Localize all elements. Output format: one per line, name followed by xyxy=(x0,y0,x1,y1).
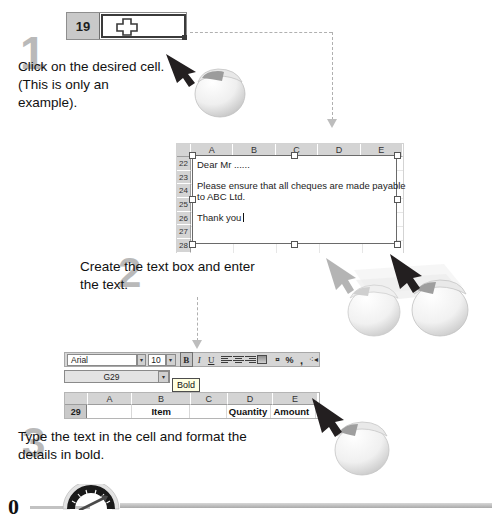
align-right-icon xyxy=(245,356,256,364)
step3-column-header-a[interactable]: A xyxy=(88,393,133,405)
textbox-handle-ne[interactable] xyxy=(394,152,401,159)
step3-column-header-d[interactable]: D xyxy=(228,393,273,405)
step3-row: 29 Item Quantity Amount xyxy=(65,405,319,418)
align-left-button[interactable] xyxy=(221,353,232,366)
decrease-decimal-button[interactable]: ⁖◂ xyxy=(308,353,319,366)
step2-row-header-column: 22 23 24 25 26 27 28 xyxy=(177,157,191,253)
textbox-handle-s[interactable] xyxy=(291,241,298,248)
speedometer-gauge-icon xyxy=(60,484,122,510)
connector-1-horizontal xyxy=(190,32,332,33)
step-2-text: Create the text box and enter the text. xyxy=(80,258,268,294)
step3-cell-d29[interactable]: Quantity xyxy=(227,405,272,418)
percent-button[interactable]: % xyxy=(284,353,295,366)
decrease-decimal-icon: ⁖◂ xyxy=(309,355,318,364)
merge-center-icon xyxy=(257,355,267,364)
bold-tooltip: Bold xyxy=(172,378,200,392)
row-header-22[interactable]: 22 xyxy=(177,157,191,171)
align-center-button[interactable] xyxy=(233,353,244,366)
textbox-line-4: Thank you xyxy=(197,212,392,224)
font-size-input[interactable]: 10 xyxy=(148,354,166,366)
step2-text-box[interactable]: Dear Mr ...... Please ensure that all ch… xyxy=(192,155,397,244)
mouse-drag-icon xyxy=(312,252,488,340)
row-header-23[interactable]: 23 xyxy=(177,171,191,185)
italic-button[interactable]: I xyxy=(194,353,205,366)
step-3-text: Type the text in the cell and format the… xyxy=(18,428,286,464)
connector-2-arrow xyxy=(192,340,202,349)
step3-row-header-29[interactable]: 29 xyxy=(65,405,87,418)
font-name-input[interactable]: Arial xyxy=(67,354,137,366)
connector-1-vertical xyxy=(332,32,333,120)
step3-column-header-row: A B C D E xyxy=(65,393,319,405)
textbox-handle-w[interactable] xyxy=(189,196,196,203)
font-size-dropdown-icon[interactable]: ▾ xyxy=(166,354,175,366)
comma-button[interactable]: , xyxy=(296,353,307,366)
step-1-text: Click on the desired cell. (This is only… xyxy=(18,58,168,112)
connector-2-vertical xyxy=(197,297,198,341)
row-header-26[interactable]: 26 xyxy=(177,212,191,226)
connector-1-arrow xyxy=(327,119,337,128)
textbox-line-3: to ABC Ltd. xyxy=(197,191,392,203)
align-left-icon xyxy=(221,356,232,364)
align-center-icon xyxy=(233,356,244,364)
bold-button[interactable]: B xyxy=(180,352,193,367)
textbox-line-2: Please ensure that all cheques are made … xyxy=(197,180,392,192)
textbox-line-1: Dear Mr ...... xyxy=(197,159,392,171)
textbox-handle-nw[interactable] xyxy=(189,152,196,159)
text-caret xyxy=(243,213,244,222)
name-box-dropdown-icon[interactable]: ▾ xyxy=(158,371,169,383)
currency-icon: ¤ xyxy=(275,355,279,364)
step3-spreadsheet[interactable]: A B C D E 29 Item Quantity Amount xyxy=(64,392,320,419)
textbox-handle-n[interactable] xyxy=(291,152,298,159)
textbox-handle-sw[interactable] xyxy=(189,241,196,248)
textbox-handle-e[interactable] xyxy=(394,196,401,203)
mouse-left-click-icon xyxy=(296,398,416,480)
name-box[interactable]: G29 ▾ xyxy=(64,370,170,383)
font-name-dropdown-icon[interactable]: ▾ xyxy=(137,354,146,366)
formatting-toolbar-row: Arial ▾ 10 ▾ B I U ¤ % , ⁖◂ xyxy=(64,352,320,367)
align-right-button[interactable] xyxy=(245,353,256,366)
footer-rule-right xyxy=(120,503,492,508)
merge-center-button[interactable] xyxy=(257,353,268,366)
currency-button[interactable]: ¤ xyxy=(272,353,283,366)
step1-row-header[interactable]: 19 xyxy=(67,13,100,39)
name-box-value: G29 xyxy=(65,372,158,382)
fill-handle[interactable] xyxy=(182,35,187,40)
step3-column-header-b[interactable]: B xyxy=(132,393,190,405)
mouse-left-click-icon xyxy=(162,50,262,118)
step1-cell-strip: 19 xyxy=(66,12,187,40)
cross-cursor xyxy=(115,18,139,36)
step3-cell-c29[interactable] xyxy=(190,405,227,418)
row-header-27[interactable]: 27 xyxy=(177,225,191,239)
step3-column-header-c[interactable]: C xyxy=(191,393,228,405)
underline-button[interactable]: U xyxy=(206,353,217,366)
step3-cell-b29[interactable]: Item xyxy=(132,405,190,418)
page-number: 0 xyxy=(8,494,19,520)
step3-select-all-corner[interactable] xyxy=(65,393,88,405)
step1-active-cell[interactable] xyxy=(101,14,186,38)
textbox-handle-se[interactable] xyxy=(394,241,401,248)
step3-cell-a29[interactable] xyxy=(87,405,132,418)
